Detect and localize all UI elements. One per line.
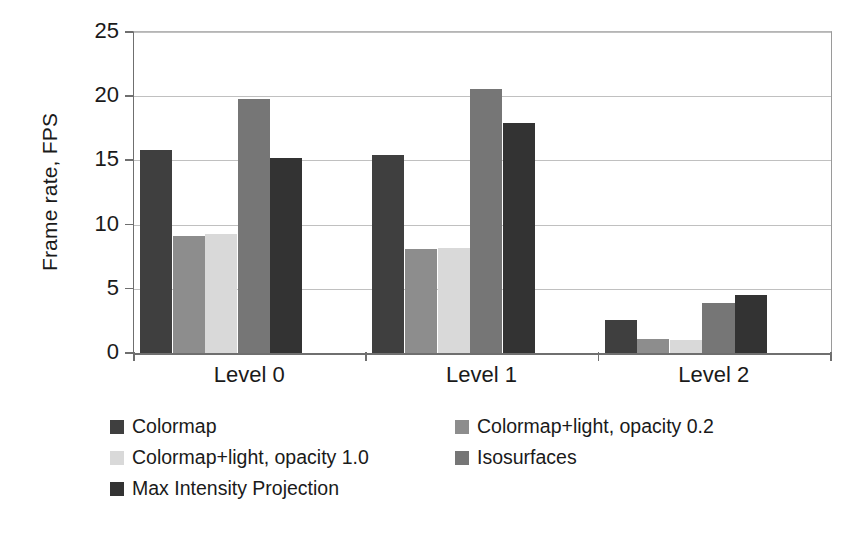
y-axis-title: Frame rate, FPS <box>38 32 62 352</box>
bar <box>270 158 302 353</box>
y-tick-mark <box>125 159 133 161</box>
x-category-label: Level 0 <box>133 362 365 388</box>
x-axis-separator-tick <box>133 352 135 361</box>
bar <box>637 339 669 353</box>
y-tick-mark <box>125 352 133 354</box>
legend-swatch-icon <box>455 420 469 434</box>
y-tick-mark <box>125 31 133 33</box>
plot-area <box>133 31 832 353</box>
bar-chart-figure: Frame rate, FPS 0510152025 Level 0Level … <box>0 0 864 533</box>
legend-label: Colormap <box>132 416 217 437</box>
bar <box>735 295 767 353</box>
bar <box>205 234 237 353</box>
chart-legend: ColormapColormap+light, opacity 0.2Color… <box>110 416 800 509</box>
y-tick-label: 0 <box>59 339 119 365</box>
x-category-label: Level 1 <box>365 362 597 388</box>
bar <box>503 123 535 353</box>
bar <box>173 236 205 353</box>
bar <box>140 150 172 353</box>
legend-item[interactable]: Colormap+light, opacity 0.2 <box>455 416 714 437</box>
x-axis-separator-tick <box>365 352 367 361</box>
legend-item[interactable]: Max Intensity Projection <box>110 478 339 499</box>
legend-label: Colormap+light, opacity 0.2 <box>477 416 714 437</box>
bar <box>405 249 437 353</box>
legend-row: Max Intensity Projection <box>110 478 800 504</box>
legend-swatch-icon <box>455 451 469 465</box>
legend-swatch-icon <box>110 420 124 434</box>
y-tick-mark <box>125 224 133 226</box>
legend-swatch-icon <box>110 451 124 465</box>
bar <box>238 99 270 353</box>
bar-series-group <box>134 32 831 353</box>
y-tick-mark <box>125 288 133 290</box>
legend-label: Colormap+light, opacity 1.0 <box>132 447 369 468</box>
bar <box>470 89 502 354</box>
bar <box>670 340 702 353</box>
x-category-label: Level 2 <box>598 362 830 388</box>
y-tick-label: 25 <box>59 18 119 44</box>
gridline <box>134 353 831 355</box>
x-axis-separator-tick <box>830 352 832 361</box>
bar <box>372 155 404 353</box>
y-tick-label: 10 <box>59 211 119 237</box>
y-tick-label: 20 <box>59 82 119 108</box>
bar <box>605 320 637 353</box>
legend-item[interactable]: Colormap <box>110 416 217 437</box>
legend-row: ColormapColormap+light, opacity 0.2 <box>110 416 800 442</box>
y-tick-label: 5 <box>59 275 119 301</box>
legend-label: Isosurfaces <box>477 447 577 468</box>
bar <box>702 303 734 353</box>
legend-swatch-icon <box>110 482 124 496</box>
y-tick-mark <box>125 95 133 97</box>
legend-item[interactable]: Colormap+light, opacity 1.0 <box>110 447 369 468</box>
x-axis-separator-tick <box>598 352 600 361</box>
legend-row: Colormap+light, opacity 1.0Isosurfaces <box>110 447 800 473</box>
legend-item[interactable]: Isosurfaces <box>455 447 577 468</box>
legend-label: Max Intensity Projection <box>132 478 339 499</box>
bar <box>438 248 470 353</box>
y-tick-label: 15 <box>59 146 119 172</box>
